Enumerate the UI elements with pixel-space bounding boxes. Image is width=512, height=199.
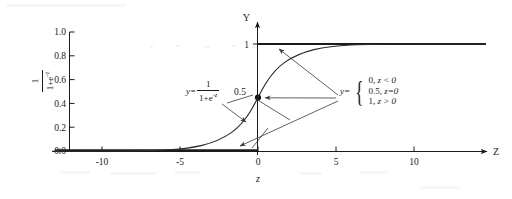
- y-tick-label: 0.2: [54, 123, 66, 133]
- case-row: 1, z > 0: [368, 97, 398, 106]
- leader-sigmoid-to-curve: [222, 104, 246, 122]
- x-tick-label: 5: [334, 157, 339, 167]
- step-equation-cases: 0, z < 0 0.5, z=0 1, z > 0: [368, 76, 398, 106]
- center-axis-tick-one-label: 1: [244, 40, 249, 50]
- case-row: 0.5, z=0: [368, 87, 398, 96]
- x-tick-label: -10: [96, 157, 109, 167]
- x-tick-label: 10: [409, 157, 419, 167]
- case-row: 0, z < 0: [368, 76, 398, 85]
- x-axis-title: z: [255, 173, 260, 184]
- sigmoid-equation-fraction: 1 1+e-z: [197, 80, 219, 104]
- half-value-label: 0.5: [234, 87, 246, 97]
- x-tick-label: -5: [176, 157, 184, 167]
- sigmoid-denominator: 1+e-z: [197, 92, 219, 103]
- y-axis-title-denominator: 1+e-z: [44, 70, 55, 93]
- sigmoid-equation-lhs: y=: [186, 87, 196, 96]
- sigmoid-step-function-chart: 1.0 0.8 0.6 0.4 0.2 0.0 -10 -5 0 5 10 Z: [0, 0, 512, 199]
- left-brace-icon: {: [355, 79, 364, 102]
- y-axis-title: 1 1+e-z: [14, 52, 72, 110]
- sigmoid-numerator: 1: [204, 80, 213, 89]
- step-equation-annotation: y= { 0, z < 0 0.5, z=0 1, z > 0: [340, 76, 398, 106]
- y-axis-cap-label: Y: [243, 12, 250, 23]
- leader-step-crossing: [256, 99, 290, 120]
- step-equation-lhs: y=: [340, 87, 350, 96]
- x-axis-tick-labels: -10 -5 0 5 10: [96, 157, 419, 167]
- y-axis-title-numerator: 1: [31, 77, 40, 86]
- sigmoid-equation-annotation: y= 1 1+e-z: [186, 80, 219, 104]
- y-tick-label: 1.0: [54, 27, 66, 37]
- chart-canvas: 1.0 0.8 0.6 0.4 0.2 0.0 -10 -5 0 5 10 Z: [0, 0, 512, 199]
- leader-step-to-upper: [279, 49, 338, 95]
- x-axis-cap-label: Z: [493, 146, 499, 157]
- leader-step-tail: [252, 128, 268, 148]
- leader-step-to-lower: [240, 101, 338, 146]
- x-tick-label: 0: [256, 157, 261, 167]
- y-axis-title-fraction: 1 1+e-z: [31, 70, 55, 93]
